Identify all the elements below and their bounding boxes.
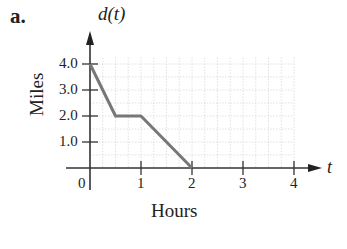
x-tick-label: 2 xyxy=(188,175,196,192)
y-tick-label: 1.0 xyxy=(59,133,78,150)
x-axis-arrow-icon xyxy=(308,164,322,172)
y-tick-label: 3.0 xyxy=(59,81,78,98)
x-tick-label: 3 xyxy=(239,175,247,192)
y-tick-label: 4.0 xyxy=(59,55,78,72)
x-tick-label: 0 xyxy=(78,175,86,192)
y-axis-label: Miles xyxy=(26,73,48,116)
axes xyxy=(66,31,322,190)
y-tick-label: 2.0 xyxy=(59,107,78,124)
x-axis-label: Hours xyxy=(151,200,197,222)
x-tick-label: 1 xyxy=(137,175,145,192)
chart-title: d(t) xyxy=(98,3,125,25)
x-tick-label: 4 xyxy=(290,175,298,192)
grid xyxy=(90,58,294,169)
part-label: a. xyxy=(10,4,26,29)
y-axis-arrow-icon xyxy=(86,31,94,45)
x-axis-variable: t xyxy=(327,157,332,178)
